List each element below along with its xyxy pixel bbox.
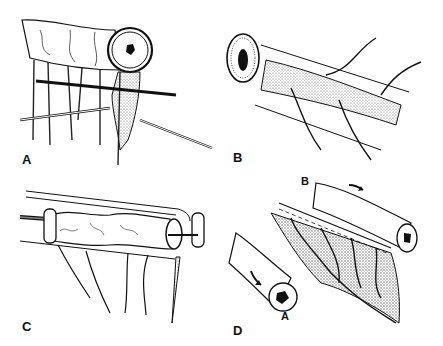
panel-d-illustration (221, 173, 443, 346)
panel-label-a: A (22, 152, 31, 167)
panel-d-sublabel-b: B (301, 175, 309, 187)
panel-a: A (0, 0, 221, 173)
panel-label-d: D (233, 323, 242, 338)
panel-label-b: B (233, 150, 242, 165)
panel-label-c: C (22, 319, 31, 334)
panel-d-sublabel-a: A (281, 310, 289, 322)
panel-c: C (0, 173, 221, 346)
panel-b-illustration (221, 0, 443, 173)
panel-c-illustration (0, 173, 221, 346)
panel-b: B (221, 0, 443, 173)
panel-a-illustration (0, 0, 221, 173)
panel-d: B A D (221, 173, 443, 346)
